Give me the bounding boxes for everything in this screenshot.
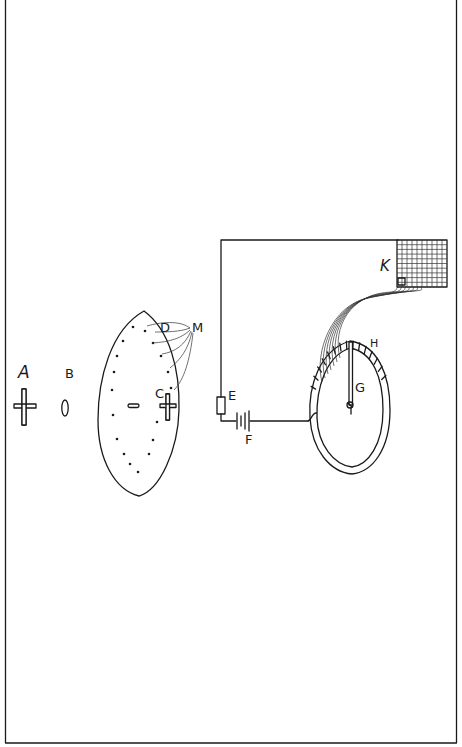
grid-highlight-cell [398, 278, 405, 285]
label-f: F [245, 432, 252, 447]
eye-dot [152, 439, 155, 442]
grid-k [397, 240, 447, 287]
ring-segment [382, 376, 386, 380]
label-b: B [65, 366, 74, 381]
eye-dot [167, 371, 170, 374]
eye-dot [112, 414, 115, 417]
label-a: A [17, 362, 30, 382]
eye-dot [137, 471, 140, 474]
eye-dot [116, 438, 119, 441]
eye-dot [123, 453, 126, 456]
lens-b [62, 400, 68, 416]
ring-segment [369, 352, 372, 359]
label-g: G [355, 380, 365, 395]
eye-dot [111, 389, 114, 392]
eye-dot [132, 326, 135, 329]
label-m: M [192, 320, 203, 335]
label-c: C [155, 386, 164, 401]
ring-segment [374, 358, 377, 364]
label-k: K [380, 257, 391, 275]
eye-dot [144, 330, 147, 333]
eye-dot [122, 340, 125, 343]
eye-dot [170, 387, 173, 390]
resistor-e [217, 397, 225, 414]
battery-f [237, 411, 249, 431]
eye-dot [129, 463, 132, 466]
eye-dot [160, 355, 163, 358]
object-cross-a [14, 389, 36, 425]
eye-dot [156, 421, 159, 424]
eye-dot [148, 453, 151, 456]
eye-dot [116, 355, 119, 358]
eye-dot [113, 371, 116, 374]
diagram-canvas: A B C D M E F [0, 0, 462, 747]
ring-segment [378, 366, 382, 371]
eye-center-slit [128, 404, 139, 408]
ring-segment [359, 343, 360, 351]
label-h: H [370, 337, 378, 350]
ring-segment [364, 346, 366, 353]
label-e: E [228, 388, 236, 403]
